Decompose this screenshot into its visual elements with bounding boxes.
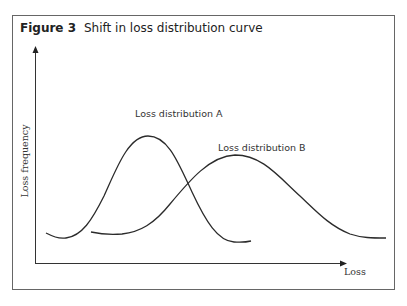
y-axis-label: Loss frequency [19,124,30,197]
figure: Figure 3 Shift in loss distribution curv… [0,0,407,306]
y-axis-arrow-icon [33,46,39,53]
figure-border [13,16,395,290]
curve-b-label: Loss distribution B [218,142,306,153]
figure-title: Figure 3 Shift in loss distribution curv… [20,20,263,35]
curve-b [91,155,386,238]
curve-a-label: Loss distribution A [135,108,223,119]
figure-svg [0,0,407,306]
figure-caption: Shift in loss distribution curve [84,21,263,35]
x-axis-label: Loss [344,266,366,277]
figure-number: Figure 3 [20,21,76,35]
